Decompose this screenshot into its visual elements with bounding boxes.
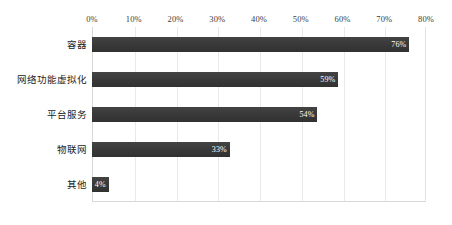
bar-value-label: 4% (95, 180, 109, 189)
bar-value-label: 54% (299, 110, 317, 119)
category-label: 其他 (0, 179, 87, 191)
category-label: 平台服务 (0, 109, 87, 121)
bar[interactable]: 54% (92, 107, 317, 122)
bar[interactable]: 4% (92, 177, 109, 192)
x-tick-label: 40% (251, 14, 267, 24)
category-label: 容器 (0, 39, 87, 51)
category-label: 物联网 (0, 144, 87, 156)
x-tick-label: 50% (293, 14, 309, 24)
bar-value-label: 33% (212, 145, 230, 154)
bar[interactable]: 33% (92, 142, 230, 157)
bar-row: 物联网 33% (0, 132, 452, 167)
bar-track: 33% (92, 142, 426, 157)
x-tick-label: 30% (209, 14, 225, 24)
bar[interactable]: 76% (92, 37, 409, 52)
bar-row: 其他 4% (0, 167, 452, 202)
bar-track: 54% (92, 107, 426, 122)
x-tick-label: 20% (168, 14, 184, 24)
x-tick-label: 80% (418, 14, 434, 24)
x-tick-label: 60% (335, 14, 351, 24)
bar-row: 容器 76% (0, 27, 452, 62)
category-label: 网络功能虚拟化 (0, 74, 87, 86)
x-axis-tick-labels: 0% 10% 20% 30% 40% 50% 60% 70% 80% (0, 14, 452, 28)
bar-track: 59% (92, 72, 426, 87)
bar-value-label: 59% (320, 75, 338, 84)
bar-chart: 0% 10% 20% 30% 40% 50% 60% 70% 80% 容器 76… (0, 0, 452, 225)
bar-row: 网络功能虚拟化 59% (0, 62, 452, 97)
bar-track: 4% (92, 177, 426, 192)
x-tick-label: 10% (126, 14, 142, 24)
bar-rows: 容器 76% 网络功能虚拟化 59% 平台服务 54% (0, 27, 452, 202)
bar[interactable]: 59% (92, 72, 338, 87)
x-tick-label: 0% (86, 14, 98, 24)
x-tick-label: 70% (376, 14, 392, 24)
bar-row: 平台服务 54% (0, 97, 452, 132)
bar-value-label: 76% (391, 40, 409, 49)
bar-track: 76% (92, 37, 426, 52)
